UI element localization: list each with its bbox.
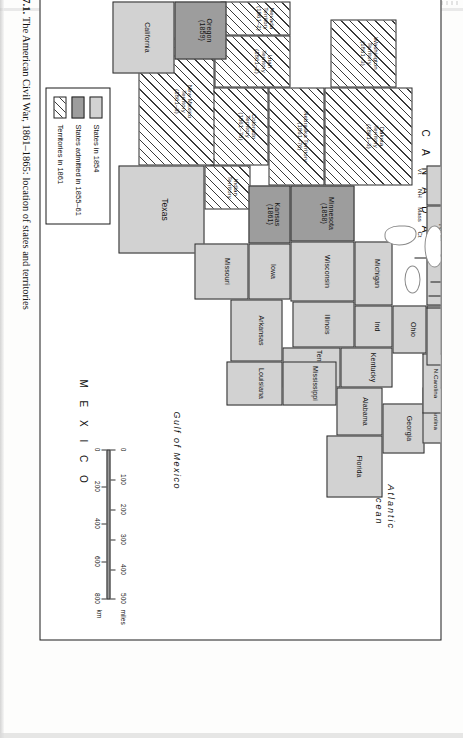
legend-label-territories: Territories in 1861: [56, 125, 65, 185]
region-louisiana: [227, 362, 283, 406]
region-georgia: [383, 404, 425, 454]
lake-superior: [425, 226, 442, 268]
texas-label: Texas: [160, 166, 169, 254]
georgia-label: Georgia: [405, 404, 412, 454]
vt-label: Vt: [416, 162, 422, 182]
scale-miles-tick-0: 0: [120, 448, 127, 452]
ct-label: Ct: [416, 226, 422, 244]
scale-km-tick-400: 400: [94, 518, 101, 529]
scale-km-tick-200: 200: [94, 481, 101, 492]
ind-label: Ind: [373, 306, 380, 348]
dakota-territory-label: Dakota Territory (1861–3): [366, 88, 385, 186]
nebraska-territory-label: Nebraska Territory (1861–76): [296, 80, 309, 194]
scale-miles-tick-300: 300: [120, 534, 127, 545]
figure-caption: Fig. 7.1. The American Civil War, 1861–1…: [21, 0, 32, 639]
scale-km-tick-800: 800: [94, 593, 101, 604]
florida-label: Florida: [355, 436, 362, 498]
arkansas-label: Arkansas: [257, 300, 264, 362]
maine-label: Maine: [440, 166, 442, 206]
legend-label-states-admitted: States admitted in 1855–61: [74, 125, 83, 216]
scale-miles-tick-400: 400: [120, 564, 127, 575]
kentucky-label: Kentucky: [369, 348, 376, 388]
scale-bar-line: [107, 450, 111, 600]
del-leader-line: [431, 282, 442, 283]
minnesota-label: Minnesota (1858): [320, 184, 335, 244]
legend-label-states-1854: States in 1854: [92, 125, 101, 173]
figure-rotated-container: C A N A D A M E X I C O Atlantic Ocean P…: [22, 0, 442, 682]
louisiana-label: Louisiana: [257, 362, 264, 406]
scale-km-tick-600: 600: [94, 556, 101, 567]
scale-miles-tick-500: 500: [120, 593, 127, 604]
colorado-territory-label: Colorado Territory (1861–76): [238, 88, 257, 166]
legend-swatch-territories: [54, 97, 67, 119]
mississippi-label: Mississippi: [311, 360, 318, 408]
region-kentucky: [341, 348, 393, 388]
legend-item-states-1854: States in 1854: [90, 97, 103, 216]
scale-km-unit: km: [96, 610, 103, 619]
region-mississippi: [283, 362, 337, 406]
scanned-book-page: C A N A D A M E X I C O Atlantic Ocean P…: [0, 0, 463, 738]
mexico-label: M E X I C O: [78, 380, 89, 488]
lake-michigan: [385, 226, 417, 246]
scan-edge-left: [0, 0, 4, 738]
illinois-label: Illinois: [323, 302, 330, 348]
kansas-label: Kansas (1861): [266, 186, 281, 244]
legend-item-territories: Territories in 1861: [54, 97, 67, 216]
scale-miles-tick-200: 200: [120, 504, 127, 515]
utah-territory-label: Utah Territory (1861–2): [254, 36, 273, 88]
oregon-label: Oregon (1859): [198, 2, 213, 60]
region-alabama: [337, 388, 383, 436]
dc-leader-line: [427, 308, 442, 309]
region-virginia: [427, 306, 442, 366]
california-label: California: [143, 2, 150, 74]
iowa-label: Iowa: [269, 244, 276, 300]
legend-swatch-states-1854: [90, 97, 103, 119]
scale-miles-unit: miles: [120, 610, 127, 625]
scale-km-tick-0: 0: [94, 448, 101, 452]
scale-miles-tick-100: 100: [120, 474, 127, 485]
missouri-label: Missouri: [223, 244, 230, 300]
gulf-of-mexico-label: Gulf of Mexico: [170, 412, 182, 491]
nh-label: NH: [416, 184, 422, 204]
legend-swatch-states-admitted: [72, 97, 85, 119]
map-legend: States in 1854 States admitted in 1855–6…: [46, 88, 111, 225]
ohio-label: Ohio: [409, 306, 416, 354]
nevada-territory-label: Nevada Territory (1861–2): [256, 0, 275, 40]
md-leader-line: [429, 296, 442, 297]
scan-edge-bottom: [0, 733, 463, 738]
lake-erie: [405, 266, 421, 294]
wisconsin-label: Wisconsin: [323, 242, 330, 302]
region-missouri: [195, 244, 249, 300]
map-frame: C A N A D A M E X I C O Atlantic Ocean P…: [40, 0, 442, 641]
alabama-label: Alabama: [361, 386, 368, 438]
mass-label: Mass: [416, 202, 422, 228]
figure-caption-text: The American Civil War, 1861–1865: locat…: [21, 17, 32, 310]
michigan-label: Michigan: [373, 242, 380, 306]
legend-item-states-admitted: States admitted in 1855–61: [72, 97, 85, 216]
figure-number: Fig. 7.1.: [21, 0, 32, 14]
indian-territory-label: Indian Territory: [226, 164, 239, 212]
washington-territory-label: Washington Territory (1861–3): [360, 20, 379, 88]
